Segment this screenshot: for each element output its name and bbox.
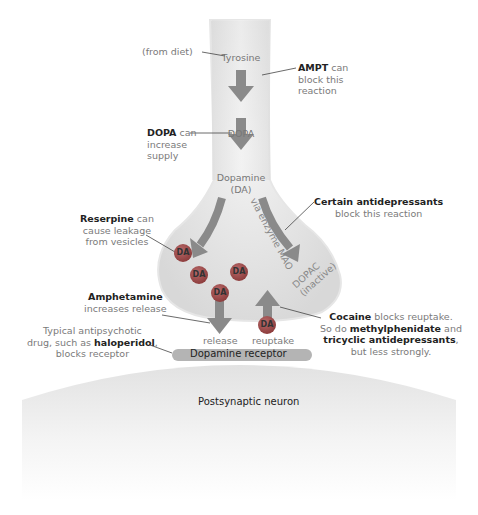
antidepressants-annotation: Certain antidepressants block this react…: [314, 196, 443, 219]
antipsychotic-line1: Typical antipsychotic: [27, 325, 158, 337]
haloperidol-drug: haloperidol: [94, 337, 155, 348]
cocaine-line4: but less strongly.: [320, 346, 462, 358]
receptor-label: Dopamine receptor: [190, 348, 287, 359]
reserpine-line2: cause leakage: [80, 225, 154, 237]
amphetamine-line2: increases release: [84, 303, 167, 315]
reuptake-label: reuptake: [252, 335, 294, 347]
cocaine-line3c: ,: [456, 334, 459, 345]
da-reuptake-molecule: DA: [258, 316, 276, 334]
dopa-line3: supply: [147, 150, 197, 162]
from-diet-label: (from diet): [142, 46, 193, 58]
cocaine-text: blocks reuptake.: [371, 311, 452, 322]
da-vesicle: DA: [190, 266, 208, 284]
dopamine-line2: (DA): [205, 184, 277, 196]
dopa-text: can: [176, 127, 196, 138]
amphetamine-annotation: Amphetamine increases release: [84, 291, 167, 314]
antipsychotic-line3: blocks receptor: [27, 348, 158, 360]
dopa-drug: DOPA: [147, 127, 176, 138]
dopamine-label: Dopamine (DA): [205, 172, 277, 195]
da-vesicle: DA: [230, 263, 248, 281]
antipsychotic-annotation: Typical antipsychotic drug, such as halo…: [27, 325, 158, 360]
reserpine-line3: from vesicles: [80, 236, 154, 248]
amphetamine-drug: Amphetamine: [88, 291, 163, 302]
reserpine-drug: Reserpine: [80, 213, 134, 224]
synapse-diagram: [0, 0, 478, 515]
dopa-annotation: DOPA can increase supply: [147, 127, 197, 162]
antidepressants-drug: Certain antidepressants: [314, 196, 443, 207]
release-label: release: [203, 335, 238, 347]
cocaine-line2a: So do: [320, 323, 350, 334]
dopamine-line1: Dopamine: [205, 172, 277, 184]
ampt-drug: AMPT: [298, 62, 328, 73]
tricyclic-drug: tricyclic antidepressants: [323, 334, 455, 345]
antidepressants-line2: block this reaction: [314, 208, 443, 220]
antipsychotic-line2a: drug, such as: [27, 337, 94, 348]
cocaine-drug: Cocaine: [329, 311, 371, 322]
cocaine-annotation: Cocaine blocks reuptake. So do methylphe…: [320, 311, 462, 357]
ampt-line2: block this: [298, 74, 348, 86]
ampt-line3: reaction: [298, 85, 348, 97]
dopa-label: DOPA: [212, 128, 270, 140]
da-vesicle: DA: [174, 244, 192, 262]
tyrosine-label: Tyrosine: [212, 52, 270, 64]
da-vesicle: DA: [211, 284, 229, 302]
antipsychotic-line2c: ,: [155, 337, 158, 348]
postsynaptic-neuron: [22, 365, 456, 500]
reserpine-annotation: Reserpine can cause leakage from vesicle…: [80, 213, 154, 248]
dopa-line2: increase: [147, 139, 197, 151]
ampt-annotation: AMPT can block this reaction: [298, 62, 348, 97]
methylphenidate-drug: methylphenidate: [350, 323, 441, 334]
reserpine-text: can: [134, 213, 154, 224]
cocaine-line2c: and: [441, 323, 462, 334]
postsynaptic-label: Postsynaptic neuron: [198, 396, 299, 407]
ampt-text: can: [328, 62, 348, 73]
